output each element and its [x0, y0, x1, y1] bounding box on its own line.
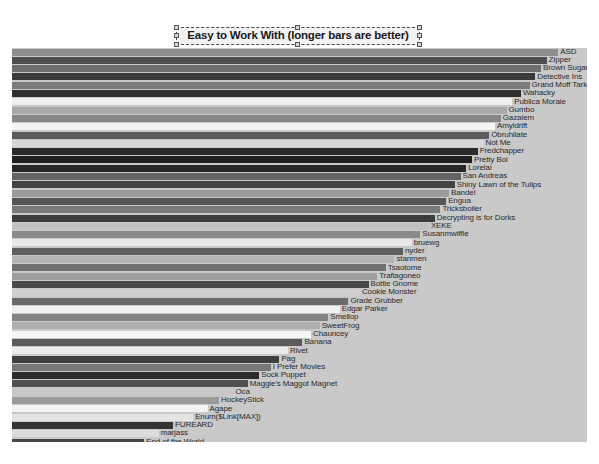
- bar[interactable]: [12, 439, 144, 442]
- bar[interactable]: [12, 239, 412, 246]
- chart-title-text: Easy to Work With (longer bars are bette…: [187, 30, 408, 42]
- bar[interactable]: [12, 73, 535, 80]
- bar-row[interactable]: Wahacky: [12, 89, 587, 97]
- bar[interactable]: [12, 339, 302, 346]
- resize-handle-middle-right[interactable]: [417, 33, 422, 38]
- bar[interactable]: [12, 281, 369, 288]
- resize-handle-top-center[interactable]: [295, 25, 300, 30]
- chart-title-textbox[interactable]: Easy to Work With (longer bars are bette…: [176, 27, 420, 45]
- bar[interactable]: [12, 181, 455, 188]
- bar[interactable]: [12, 231, 420, 238]
- bar-row[interactable]: SweetFrog: [12, 322, 587, 330]
- bar[interactable]: [12, 331, 311, 338]
- resize-handle-top-right[interactable]: [417, 25, 422, 30]
- bar-row[interactable]: Bandel: [12, 189, 587, 197]
- bar-row[interactable]: Bottle Gnome: [12, 280, 587, 288]
- bar[interactable]: [12, 173, 461, 180]
- chart-canvas: ASDZipperBrown SugarDetective InsGrand M…: [0, 0, 599, 464]
- bar[interactable]: [12, 190, 449, 197]
- bar[interactable]: [12, 405, 208, 412]
- bar[interactable]: [12, 123, 495, 130]
- bar-row[interactable]: Grand Moff Tark: [12, 81, 587, 89]
- bar[interactable]: [12, 49, 558, 56]
- bar[interactable]: [12, 256, 394, 263]
- bar-row[interactable]: Rivet: [12, 347, 587, 355]
- bar-row[interactable]: Tsaotome: [12, 264, 587, 272]
- bar[interactable]: [12, 65, 541, 72]
- bar[interactable]: [12, 140, 484, 147]
- bar[interactable]: [12, 289, 360, 296]
- bar-row[interactable]: Pretty Boi: [12, 156, 587, 164]
- bar-row[interactable]: Grade Grubber: [12, 297, 587, 305]
- bar[interactable]: [12, 314, 328, 321]
- bar[interactable]: [12, 156, 472, 163]
- bar[interactable]: [12, 215, 435, 222]
- bar-row[interactable]: Edgar Parker: [12, 305, 587, 313]
- bar-row[interactable]: Cookie Monster: [12, 289, 587, 297]
- bar[interactable]: [12, 380, 248, 387]
- resize-handle-top-left[interactable]: [174, 25, 179, 30]
- bar-row[interactable]: Engua: [12, 197, 587, 205]
- bar-row[interactable]: Shiny Lawn of the Tulips: [12, 181, 587, 189]
- bar-row[interactable]: FUREARD: [12, 421, 587, 429]
- bar-row[interactable]: nyder: [12, 247, 587, 255]
- bar-row[interactable]: marjass: [12, 430, 587, 438]
- bar-label: End of the World: [146, 437, 204, 442]
- bar[interactable]: [12, 372, 259, 379]
- bar[interactable]: [12, 422, 173, 429]
- bar-row[interactable]: Maggie's Maggot Magnet: [12, 380, 587, 388]
- bar[interactable]: [12, 298, 348, 305]
- bar[interactable]: [12, 430, 159, 437]
- bar-row[interactable]: Gumbo: [12, 106, 587, 114]
- bar-label: Maggie's Maggot Magnet: [250, 379, 337, 388]
- bar[interactable]: [12, 356, 279, 363]
- bar[interactable]: [12, 273, 377, 280]
- bar[interactable]: [12, 306, 340, 313]
- bar-row[interactable]: XEKE: [12, 222, 587, 230]
- bar-chart-plot-area[interactable]: ASDZipperBrown SugarDetective InsGrand M…: [12, 48, 587, 442]
- bar[interactable]: [12, 223, 429, 230]
- bar[interactable]: [12, 165, 466, 172]
- bar-row[interactable]: stanmen: [12, 255, 587, 263]
- bar-row[interactable]: Enum($Link[MAX]): [12, 413, 587, 421]
- bar-row[interactable]: Decrypting is for Dorks: [12, 214, 587, 222]
- resize-handle-bottom-right[interactable]: [417, 42, 422, 47]
- bar-row[interactable]: Zipper: [12, 56, 587, 64]
- bar[interactable]: [12, 115, 501, 122]
- resize-handle-bottom-center[interactable]: [295, 42, 300, 47]
- bar-row[interactable]: bruewg: [12, 239, 587, 247]
- bar[interactable]: [12, 206, 440, 213]
- bar-row[interactable]: Brown Sugar: [12, 65, 587, 73]
- bar-row[interactable]: Agape: [12, 405, 587, 413]
- bar-row[interactable]: Chauncey: [12, 330, 587, 338]
- bar[interactable]: [12, 264, 386, 271]
- bar-row[interactable]: Traflagoneo: [12, 272, 587, 280]
- bar-row[interactable]: ASD: [12, 48, 587, 56]
- bar-row[interactable]: Oca: [12, 388, 587, 396]
- bar[interactable]: [12, 148, 478, 155]
- bar[interactable]: [12, 347, 288, 354]
- bar-label: Banana: [304, 337, 331, 346]
- bar-row[interactable]: Publica Morale: [12, 98, 587, 106]
- bar[interactable]: [12, 98, 512, 105]
- bar-row[interactable]: Smellop: [12, 314, 587, 322]
- bar-row[interactable]: Detective Ins: [12, 73, 587, 81]
- bar-row[interactable]: End of the World: [12, 438, 587, 442]
- resize-handle-middle-left[interactable]: [174, 33, 179, 38]
- bar[interactable]: [12, 107, 507, 114]
- bar[interactable]: [12, 57, 547, 64]
- bar[interactable]: [12, 364, 271, 371]
- bar[interactable]: [12, 389, 233, 396]
- resize-handle-bottom-left[interactable]: [174, 42, 179, 47]
- bar[interactable]: [12, 198, 446, 205]
- bar[interactable]: [12, 82, 530, 89]
- bar[interactable]: [12, 414, 193, 421]
- bar[interactable]: [12, 322, 320, 329]
- bar-row[interactable]: Susanmwiffle: [12, 231, 587, 239]
- bar[interactable]: [12, 132, 489, 139]
- bar[interactable]: [12, 397, 219, 404]
- bar-row[interactable]: HockeyStick: [12, 396, 587, 404]
- bar[interactable]: [12, 248, 403, 255]
- bar[interactable]: [12, 90, 521, 97]
